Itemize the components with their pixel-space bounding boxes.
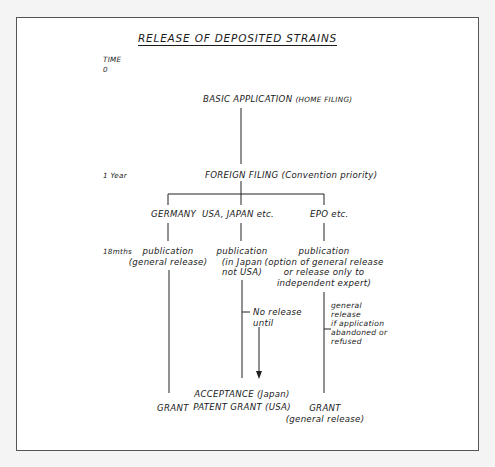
time-header: TIME [103,55,121,66]
publication-note: (option of general release [265,257,384,268]
annotation-line: until [253,318,302,329]
publication-label: publication [265,246,384,257]
usa-japan-end: ACCEPTANCE (Japan) PATENT GRANT (USA) [193,389,291,412]
publication-note: (general release) [129,257,208,268]
publication-note: or release only to [265,267,384,278]
annotation-line: if application [331,319,388,328]
annotation-general-release: general release if application abandoned… [331,301,388,346]
germany-grant: GRANT [157,403,189,414]
home-filing-note: (HOME FILING) [295,95,352,104]
annotation-line: general [331,301,388,310]
epo-publication: publication (option of general release o… [265,246,384,288]
annotation-no-release: No release until [253,307,302,328]
diagram-title: RELEASE OF DEPOSITED STRAINS [138,33,337,44]
publication-note: independent expert) [265,278,384,289]
epo-grant: GRANT (general release) [286,403,365,424]
publication-note: (in Japan [217,257,268,268]
grant-note: (general release) [286,414,365,425]
publication-note: not USA) [217,267,268,278]
branch-germany: GERMANY [151,209,196,220]
annotation-line: abandoned or [331,328,388,337]
acceptance-japan: ACCEPTANCE (Japan) [193,389,291,400]
basic-application-label: BASIC APPLICATION [203,94,292,104]
publication-label: publication [217,246,268,257]
grant-label: GRANT [286,403,365,414]
annotation-line: refused [331,337,388,346]
node-basic-application: BASIC APPLICATION (HOME FILING) [203,94,352,106]
branch-usa-japan: USA, JAPAN etc. [202,209,274,220]
time-one-year: 1 Year [103,171,127,182]
arrow-head-icon [256,371,262,379]
patent-grant-usa: PATENT GRANT (USA) [193,402,291,413]
branch-epo: EPO etc. [310,209,349,220]
usa-publication: publication (in Japan not USA) [217,246,268,278]
germany-publication: publication (general release) [129,246,208,267]
node-foreign-filing: FOREIGN FILING (Convention priority) [205,170,377,181]
annotation-line: No release [253,307,302,318]
annotation-line: release [331,310,388,319]
time-zero: 0 [103,65,108,76]
publication-label: publication [129,246,208,257]
